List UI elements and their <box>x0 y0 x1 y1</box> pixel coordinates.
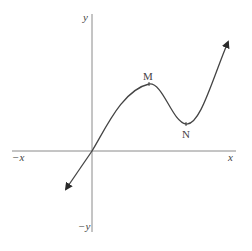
negative-x-axis-label: −x <box>12 151 24 163</box>
x-axis-label: x <box>227 151 233 163</box>
function-curve <box>92 42 228 151</box>
function-curve-tail <box>66 151 92 189</box>
point-m-label: M <box>143 70 153 82</box>
point-n-label: N <box>182 128 190 140</box>
function-graph: y −y −x x M N <box>0 0 252 251</box>
negative-y-axis-label: −y <box>78 220 90 232</box>
y-axis-label: y <box>82 11 88 23</box>
